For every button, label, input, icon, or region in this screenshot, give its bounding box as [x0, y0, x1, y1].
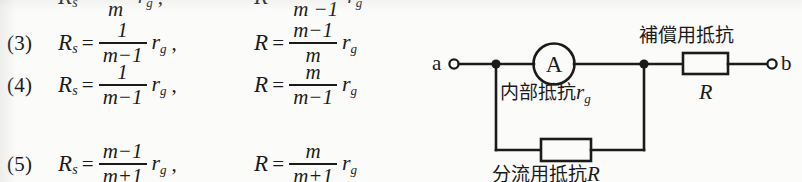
equation-3-left: Rs = 1 m−1 rg , — [58, 19, 254, 67]
lhs-5-left: Rs — [58, 151, 78, 178]
terminal-b-node — [767, 59, 776, 68]
equation-number-5: (5) — [0, 152, 58, 177]
equation-row-4: (4) Rs = 1 m−1 rg , R = — [0, 61, 438, 109]
equation-number-3: (3) — [0, 31, 58, 56]
junction-dot-left — [491, 59, 500, 68]
ammeter-circuit-diagram: a b 補償用抵抗 R 内部抵抗rg 分流用抵抗R — [424, 20, 802, 182]
lhs-3-left: Rs — [58, 30, 78, 57]
denominator-4-right: m−1 — [289, 86, 337, 109]
lhs-4-right: R — [254, 72, 268, 98]
numerator-5-right: m — [302, 140, 325, 163]
scanned-page: Rs = 1 m rg , R = m m −1 — [0, 0, 802, 182]
equals-4-right: = — [272, 73, 284, 98]
shunt-resistor-box — [541, 139, 591, 161]
numerator-5-left: m−1 — [99, 140, 147, 163]
fraction-4-left: 1 m−1 — [99, 61, 147, 109]
junction-dot-right — [639, 59, 648, 68]
equation-5-left: Rs = m−1 m+1 rg , — [58, 140, 254, 182]
numerator-3-right: m−1 — [289, 19, 337, 42]
numerator-4-left: 1 — [113, 61, 132, 84]
equation-clipped-right: R = m m −1 rg — [254, 0, 438, 21]
equation-5-right: R = m m+1 rg — [254, 140, 438, 182]
equals-3-right: = — [272, 31, 284, 56]
denominator-5-left: m+1 — [99, 165, 147, 182]
denominator-4-left: m−1 — [99, 86, 147, 109]
equals-5-right: = — [272, 152, 284, 177]
lhs-4-left: Rs — [58, 72, 78, 99]
equation-4-right: R = m m−1 rg — [254, 61, 438, 109]
fraction-4-right: m m−1 — [289, 61, 337, 109]
numerator-3-left: 1 — [113, 19, 132, 42]
equation-row-5: (5) Rs = m−1 m+1 rg , R = — [0, 140, 438, 182]
ammeter-letter: A — [546, 52, 563, 77]
factor-3-left: rg — [149, 29, 167, 57]
comma-5: , — [167, 152, 177, 177]
equation-4-left: Rs = 1 m−1 rg , — [58, 61, 254, 109]
compensating-resistor-box — [683, 53, 728, 74]
comma-3: , — [167, 31, 177, 56]
equation-list: Rs = 1 m rg , R = m m −1 — [0, 0, 438, 182]
denominator-5-right: m+1 — [289, 165, 337, 182]
factor-5-left: rg — [149, 150, 167, 178]
equals-5-left: = — [82, 152, 94, 177]
terminal-a-node — [449, 59, 458, 68]
factor-3-right: rg — [339, 29, 357, 57]
lhs-5-right: R — [254, 151, 268, 177]
comma-4: , — [167, 73, 177, 98]
equation-row-clipped: Rs = 1 m rg , R = m m −1 — [0, 0, 438, 21]
equation-clipped-left: Rs = 1 m rg , — [58, 0, 254, 21]
factor-5-right: rg — [339, 150, 357, 178]
equals-4-left: = — [82, 73, 94, 98]
equation-number-4: (4) — [0, 73, 58, 98]
equation-row-3: (3) Rs = 1 m−1 rg , R = — [0, 19, 438, 67]
fraction-5-right: m m+1 — [289, 140, 337, 182]
circuit-schematic-svg: A — [424, 20, 802, 182]
numerator-4-right: m — [302, 61, 325, 84]
fraction-5-left: m−1 m+1 — [99, 140, 147, 182]
equals-3-left: = — [82, 31, 94, 56]
equation-3-right: R = m−1 m rg — [254, 19, 438, 67]
lhs-3-right: R — [254, 30, 268, 56]
factor-4-left: rg — [149, 71, 167, 99]
factor-4-right: rg — [339, 71, 357, 99]
